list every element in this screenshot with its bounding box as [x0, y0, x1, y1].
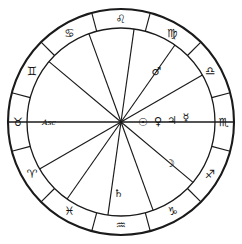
planet-glyph-mars: ♂ [152, 65, 162, 78]
planet-glyph-sun: ☉ [138, 116, 148, 129]
house-spoke-10 [108, 122, 121, 215]
sign-glyph-taurus: ♉ [13, 115, 23, 129]
sign-glyph-gemini: ♊ [27, 64, 37, 78]
sign-glyph-capricorn: ♑ [167, 204, 177, 218]
sign-divider-2 [145, 13, 150, 31]
astrology-chart-wheel: ♏♎♍♌♋♊♉♈♓♒♑♐ ☿♃♀☉☽♄♂ Asc [0, 0, 242, 244]
planet-glyph-jupiter: ♃ [167, 114, 177, 127]
sign-glyph-scorpio: ♏ [219, 115, 229, 129]
planet-glyph-venus: ♀ [154, 115, 162, 128]
sign-glyph-sagittarius: ♐ [205, 167, 215, 181]
sign-glyph-virgo: ♍ [167, 26, 177, 40]
sign-divider-7 [41, 188, 54, 201]
sign-glyph-cancer: ♋ [64, 26, 74, 40]
planet-glyph-mercury: ☿ [182, 111, 189, 124]
planet-glyph-saturn: ♄ [114, 187, 124, 200]
sign-glyph-leo: ♌ [116, 12, 126, 26]
sign-divider-0 [212, 93, 230, 98]
sign-divider-11 [212, 146, 230, 151]
sign-glyph-pisces: ♓ [64, 204, 74, 218]
chart-canvas: ♏♎♍♌♋♊♉♈♓♒♑♐ ☿♃♀☉☽♄♂ Asc [0, 0, 242, 244]
sign-divider-3 [92, 13, 97, 31]
sign-divider-6 [12, 146, 30, 151]
chart-point-group: Asc [41, 118, 56, 127]
sign-glyph-aries: ♈ [27, 167, 38, 181]
sign-glyph-aquarius: ♒ [116, 218, 126, 232]
house-spoke-3 [121, 45, 175, 122]
sign-divider-1 [187, 42, 200, 55]
sign-divider-10 [187, 188, 200, 201]
sign-glyph-libra: ♎ [205, 64, 215, 78]
planet-glyph-moon: ☽ [165, 157, 175, 170]
sign-divider-5 [12, 93, 30, 98]
sign-divider-9 [145, 213, 150, 231]
sign-divider-8 [92, 213, 97, 231]
house-spoke-4 [121, 29, 134, 122]
chart-point-ascendant: Asc [41, 118, 56, 127]
sign-divider-4 [41, 42, 54, 55]
house-spoke-8 [40, 122, 121, 169]
